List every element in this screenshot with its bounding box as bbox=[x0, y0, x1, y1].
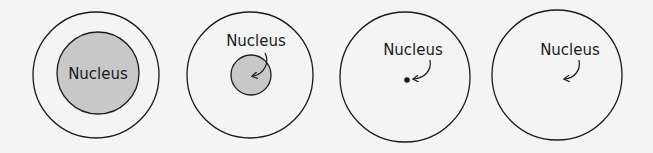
atom-panel-2: Nucleus bbox=[187, 12, 313, 138]
nucleus-label: Nucleus bbox=[383, 41, 443, 59]
pointer-arrow bbox=[565, 60, 579, 79]
atom-outer-circle bbox=[492, 10, 622, 140]
nucleus-size-diagram: Nucleus Nucleus Nucleus Nucleus bbox=[0, 0, 653, 153]
nucleus-label: Nucleus bbox=[540, 41, 600, 59]
nucleus-label: Nucleus bbox=[226, 32, 286, 50]
atom-outer-circle bbox=[340, 12, 470, 142]
pointer-arrow bbox=[414, 60, 430, 79]
nucleus-dot bbox=[404, 77, 410, 83]
nucleus-circle bbox=[231, 55, 271, 95]
atom-panel-4: Nucleus bbox=[492, 10, 622, 140]
atom-panel-1: Nucleus bbox=[33, 12, 159, 138]
nucleus-label: Nucleus bbox=[68, 65, 128, 83]
atom-panel-3: Nucleus bbox=[340, 12, 470, 142]
